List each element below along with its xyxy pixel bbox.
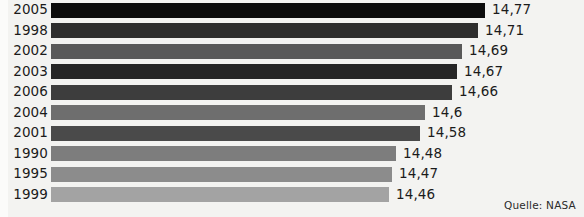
bar-value-label: 14,77 [492,0,531,21]
bar-category-label: 1990 [8,144,48,165]
bar [51,44,462,59]
bar-value-label: 14,69 [469,41,508,62]
bar [51,23,478,38]
bar-value-label: 14,48 [403,144,442,165]
bar [51,105,425,120]
bar-row: 199014,48 [0,144,584,165]
bar-chart: 200514,77199814,71200214,69200314,672006… [0,0,584,217]
bar-value-label: 14,67 [464,62,503,83]
bar [51,146,396,161]
bar-row: 200614,66 [0,82,584,103]
bar-value-label: 14,46 [396,185,435,206]
bar-row: 200114,58 [0,123,584,144]
bar-category-label: 1998 [8,21,48,42]
bar [51,167,392,182]
bar-row: 200414,6 [0,103,584,124]
bar-value-label: 14,6 [432,103,462,124]
bar-row: 200214,69 [0,41,584,62]
bar-row: 199814,71 [0,21,584,42]
bar [51,187,389,202]
bar-category-label: 2004 [8,103,48,124]
bar-row: 200514,77 [0,0,584,21]
bar-value-label: 14,47 [399,164,438,185]
bar-category-label: 2002 [8,41,48,62]
bar-category-label: 2001 [8,123,48,144]
bar [51,126,420,141]
bar-value-label: 14,71 [485,21,524,42]
bar-category-label: 2006 [8,82,48,103]
bar-category-label: 1999 [8,185,48,206]
bar-row: 199514,47 [0,164,584,185]
bar-category-label: 2003 [8,62,48,83]
bar-value-label: 14,58 [427,123,466,144]
bar-row: 200314,67 [0,62,584,83]
bar-category-label: 2005 [8,0,48,21]
bar-value-label: 14,66 [459,82,498,103]
bar-rows-container: 200514,77199814,71200214,69200314,672006… [0,0,584,217]
bar [51,3,485,18]
bar-row: 199914,46 [0,185,584,206]
bar [51,64,457,79]
bar-category-label: 1995 [8,164,48,185]
source-label: Quelle: NASA [504,199,576,211]
bar [51,85,452,100]
